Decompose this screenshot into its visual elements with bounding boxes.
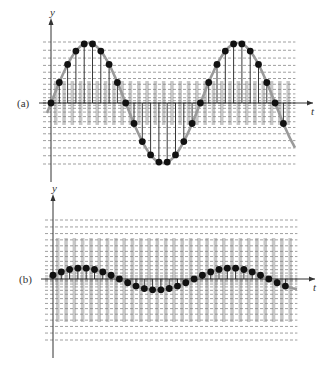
sample-dot [116, 276, 123, 283]
sample-dot [164, 159, 171, 166]
y-axis-label: y [49, 6, 55, 18]
sample-dot [180, 138, 187, 145]
sample-dot [232, 265, 239, 272]
sample-dot [249, 269, 256, 276]
sample-dot [166, 285, 173, 292]
sample-dot [75, 265, 82, 272]
sample-dot [255, 61, 262, 68]
panel-label: (a) [17, 97, 30, 110]
sample-dot [108, 272, 115, 279]
sampling-diagram: (a)yt (b)yt [0, 0, 334, 372]
sample-dot [265, 276, 272, 283]
sample-dot [83, 265, 90, 272]
sample-dot [207, 269, 214, 276]
sample-dot [133, 283, 140, 290]
sample-dot [66, 266, 73, 273]
sample-dot [122, 100, 129, 107]
sample-dot [158, 286, 165, 293]
sample-dot [114, 79, 121, 86]
sample-dot [222, 48, 229, 55]
sample-dot [99, 269, 106, 276]
sample-dot [139, 138, 146, 145]
panel-b-sampled-sine-low-amplitude: (b)yt [19, 182, 317, 358]
sample-dot [64, 61, 71, 68]
sample-dot [131, 120, 138, 127]
sample-dot [199, 272, 206, 279]
sample-dot [197, 100, 204, 107]
sample-dot [156, 159, 163, 166]
sample-dot [141, 285, 148, 292]
sample-dot [191, 276, 198, 283]
sample-dot [174, 283, 181, 290]
sample-dot [106, 61, 113, 68]
sample-dot [239, 41, 246, 48]
sample-dot [89, 41, 96, 48]
sample-dot [230, 41, 237, 48]
sample-dot [272, 100, 279, 107]
sample-dot [73, 48, 80, 55]
sample-dot [91, 266, 98, 273]
sample-dot [214, 61, 221, 68]
sample-dot [48, 100, 55, 107]
sample-dot [149, 286, 156, 293]
panel-a-sampled-sine: (a)yt [17, 6, 315, 182]
sample-dot [224, 265, 231, 272]
sample-dot [216, 266, 223, 273]
sample-dot [280, 120, 287, 127]
sample-dot [189, 120, 196, 127]
t-axis-label: t [311, 105, 315, 117]
sample-dot [124, 279, 131, 286]
sample-dot [50, 272, 57, 279]
sample-dot [182, 279, 189, 286]
sample-dot [58, 269, 65, 276]
sample-dot [147, 152, 154, 159]
sample-dot [205, 79, 212, 86]
y-axis-label: y [51, 182, 57, 194]
sample-dot [282, 283, 289, 290]
sample-dot [263, 79, 270, 86]
sample-dot [81, 41, 88, 48]
sample-dot [97, 48, 104, 55]
panel-label: (b) [19, 273, 32, 286]
sample-dot [172, 152, 179, 159]
t-axis-label: t [313, 281, 317, 293]
sample-dot [247, 48, 254, 55]
sample-dot [241, 266, 248, 273]
sample-dot [56, 79, 63, 86]
sample-dot [257, 272, 264, 279]
sample-dot [274, 279, 281, 286]
